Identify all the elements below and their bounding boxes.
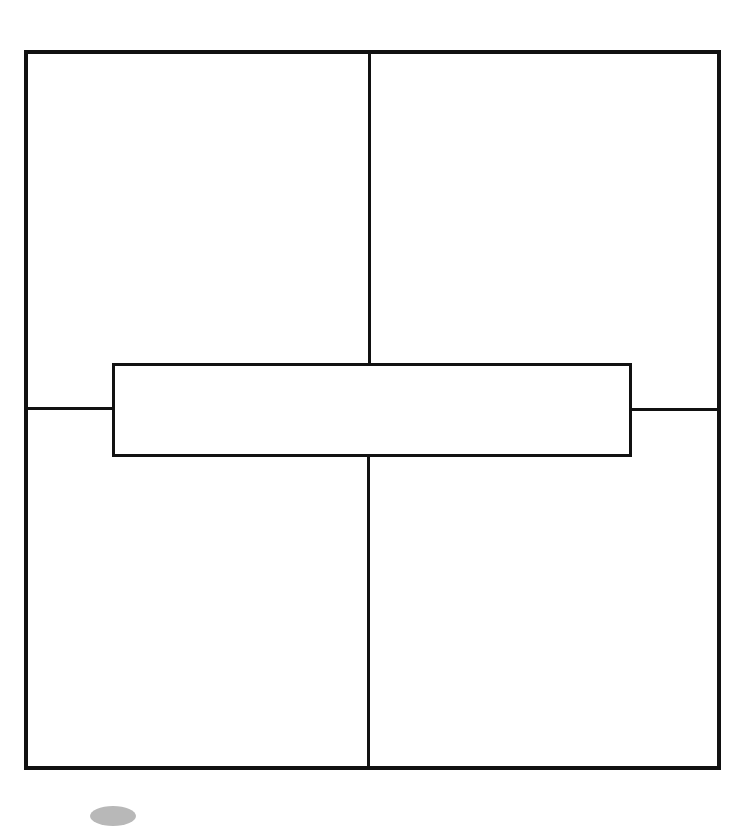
horizontal-divider-right bbox=[631, 408, 719, 411]
center-box bbox=[112, 363, 632, 457]
quadrant-bottom-right bbox=[370, 457, 717, 766]
horizontal-divider-left bbox=[26, 407, 114, 410]
quadrant-top-right bbox=[371, 54, 717, 363]
quadrant-bottom-left bbox=[28, 457, 367, 766]
scan-smudge bbox=[90, 806, 136, 826]
quadrant-top-left bbox=[28, 54, 368, 363]
